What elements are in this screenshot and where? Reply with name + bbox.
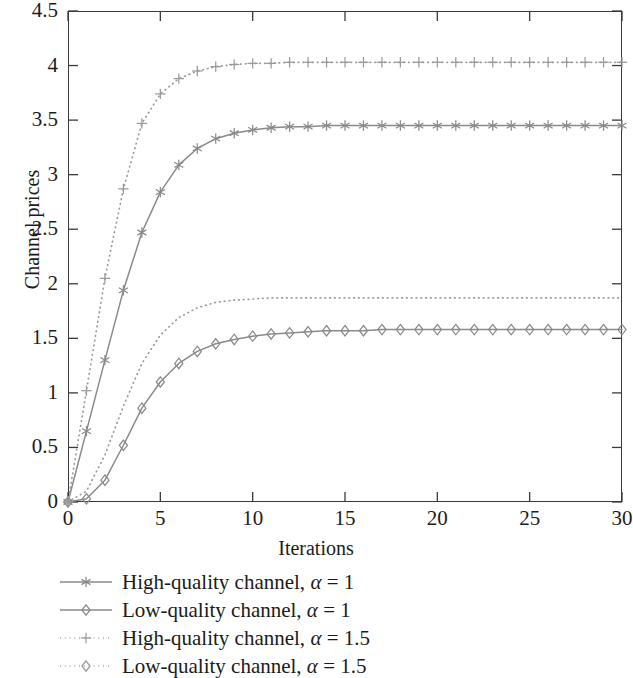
legend-label: Low-quality channel, α = 1.5: [116, 654, 366, 678]
legend-label-suffix: = 1.5: [318, 654, 367, 678]
legend-label-prefix: Low-quality channel,: [122, 654, 307, 678]
y-tick-label: 4: [48, 55, 59, 76]
legend-entry[interactable]: High-quality channel, α = 1.5: [56, 624, 556, 652]
legend-entry[interactable]: Low-quality channel, α = 1.5: [56, 652, 556, 678]
x-tick-label: 20: [427, 508, 448, 529]
y-axis-title: Channel prices: [21, 130, 44, 330]
legend-label-prefix: Low-quality channel,: [122, 598, 307, 622]
y-tick-label: 4.5: [32, 0, 58, 21]
legend-label-alpha: α: [310, 570, 321, 594]
y-tick-label: 2: [48, 273, 59, 294]
y-tick-label: 3.5: [32, 109, 58, 130]
data-point-marker: [81, 633, 91, 643]
legend-label: High-quality channel, α = 1: [116, 570, 354, 594]
legend-entry[interactable]: Low-quality channel, α = 1: [56, 596, 556, 624]
y-tick-label: 0.5: [32, 436, 58, 457]
x-tick-label: 15: [335, 508, 356, 529]
legend-marker-diamond-icon: [56, 598, 116, 622]
legend-entry[interactable]: High-quality channel, α = 1: [56, 568, 556, 596]
y-tick-label: 1: [48, 382, 59, 403]
legend-label-alpha: α: [310, 626, 321, 650]
legend-label-prefix: High-quality channel,: [122, 626, 310, 650]
x-tick-label: 5: [155, 508, 166, 529]
chart-legend: High-quality channel, α = 1Low-quality c…: [56, 568, 556, 678]
x-tick-label: 30: [612, 508, 633, 529]
legend-label-suffix: = 1.5: [321, 626, 370, 650]
legend-label: High-quality channel, α = 1.5: [116, 626, 370, 650]
x-tick-label: 25: [519, 508, 540, 529]
legend-label-suffix: = 1: [318, 598, 351, 622]
plot-area: [68, 11, 622, 502]
x-tick-label-group: 051015202530: [0, 508, 632, 534]
legend-label-alpha: α: [307, 654, 318, 678]
legend-label-suffix: = 1: [321, 570, 354, 594]
legend-marker-plus-icon: [56, 626, 116, 650]
legend-label-prefix: High-quality channel,: [122, 570, 310, 594]
legend-label: Low-quality channel, α = 1: [116, 598, 351, 622]
legend-marker-asterisk-icon: [56, 570, 116, 594]
y-tick-label: 1.5: [32, 327, 58, 348]
x-tick-label: 0: [63, 508, 74, 529]
legend-label-alpha: α: [307, 598, 318, 622]
legend-marker-diamond-icon: [56, 654, 116, 678]
x-axis-title: Iterations: [0, 537, 632, 560]
x-tick-label: 10: [242, 508, 263, 529]
y-tick-label: 3: [48, 164, 59, 185]
